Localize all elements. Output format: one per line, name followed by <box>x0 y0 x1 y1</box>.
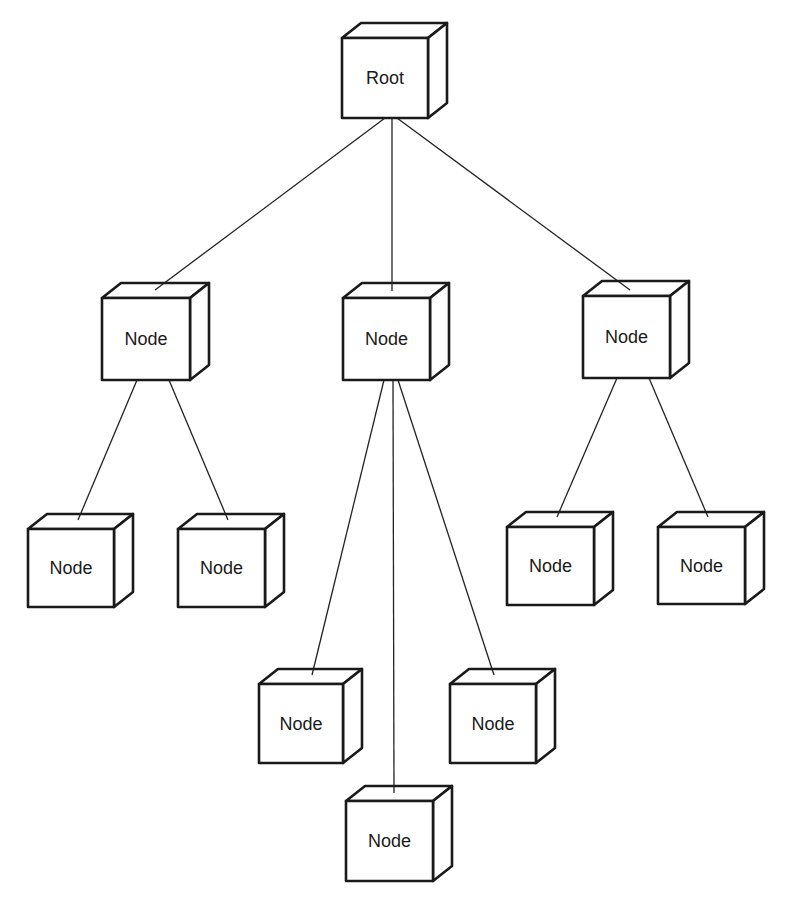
cube-side-face <box>343 669 362 763</box>
node-label: Node <box>368 831 411 851</box>
node-label: Root <box>366 68 404 88</box>
edge-n2-to-n2b <box>393 380 394 793</box>
node-label: Node <box>124 329 167 349</box>
edge-n3-to-n3b <box>649 378 708 517</box>
root-node: Root <box>342 23 447 118</box>
node-label: Node <box>365 329 408 349</box>
edge-n1-to-n1b <box>169 380 228 520</box>
cube-side-face <box>433 786 452 881</box>
tree-node: Node <box>507 512 613 605</box>
node-label: Node <box>605 327 648 347</box>
cube-side-face <box>428 23 447 118</box>
tree-diagram: RootNodeNodeNodeNodeNodeNodeNodeNodeNode… <box>0 0 791 902</box>
edge-n1-to-n1a <box>78 380 137 520</box>
edge-root-to-n1 <box>155 118 385 290</box>
node-label: Node <box>529 556 572 576</box>
edge-n2-to-n2a <box>312 380 384 675</box>
tree-node: Node <box>178 514 284 607</box>
nodes-layer: RootNodeNodeNodeNodeNodeNodeNodeNodeNode… <box>28 23 764 881</box>
cube-side-face <box>114 514 133 607</box>
cube-side-face <box>430 283 449 380</box>
node-label: Node <box>471 714 514 734</box>
tree-node: Node <box>450 669 555 763</box>
cube-side-face <box>594 512 613 605</box>
cube-side-face <box>265 514 284 607</box>
node-label: Node <box>279 714 322 734</box>
edge-n3-to-n3a <box>557 378 617 517</box>
cube-side-face <box>536 669 555 763</box>
tree-node: Node <box>28 514 133 607</box>
edges-layer <box>78 118 708 793</box>
tree-node: Node <box>658 512 764 604</box>
cube-side-face <box>670 281 689 378</box>
tree-node: Node <box>346 786 452 881</box>
node-label: Node <box>200 558 243 578</box>
node-label: Node <box>49 558 92 578</box>
node-label: Node <box>680 556 723 576</box>
edge-root-to-n3 <box>397 118 630 290</box>
tree-node: Node <box>583 281 689 378</box>
tree-node: Node <box>343 283 449 380</box>
tree-node: Node <box>102 283 209 380</box>
edge-n2-to-n2c <box>398 380 494 675</box>
cube-side-face <box>190 283 209 380</box>
tree-node: Node <box>259 669 362 763</box>
cube-side-face <box>745 512 764 604</box>
